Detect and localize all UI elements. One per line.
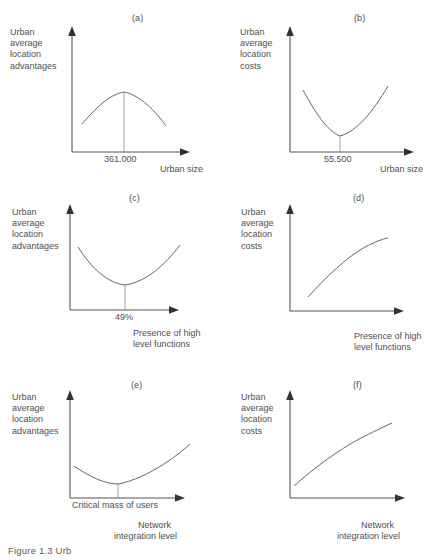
panel-b-tick-label: 55.500 xyxy=(324,154,352,164)
panel-a: (a) Urban average location advantages 36… xyxy=(0,0,223,185)
panel-e: (e) Urban average location advantages Cr… xyxy=(0,370,223,560)
panel-f-xlabel: Network integration level xyxy=(361,520,400,542)
panel-a-tick-label: 361.000 xyxy=(104,154,137,164)
panel-c: (c) Urban average location advantages 49… xyxy=(0,185,223,370)
panel-b: (b) Urban average location costs 55.500 … xyxy=(223,0,446,185)
panel-c-tick-label: 49% xyxy=(115,312,133,322)
panel-e-plot xyxy=(0,370,223,560)
panel-f: (f) Urban average location costs Network… xyxy=(223,370,446,560)
panel-d-xlabel: Presence of high level functions xyxy=(354,331,422,353)
panel-f-plot xyxy=(223,370,446,560)
panel-d: (d) Urban average location costs Presenc… xyxy=(223,185,446,370)
panel-e-tick-label: Critical mass of users xyxy=(72,500,158,510)
panel-c-xlabel: Presence of high level functions xyxy=(133,328,201,350)
panel-e-xlabel: Network integration level xyxy=(138,520,177,542)
panel-a-xlabel: Urban size xyxy=(160,164,203,175)
panel-b-xlabel: Urban size xyxy=(380,164,423,175)
figure-caption: Figure 1.3 Urb xyxy=(8,545,72,556)
